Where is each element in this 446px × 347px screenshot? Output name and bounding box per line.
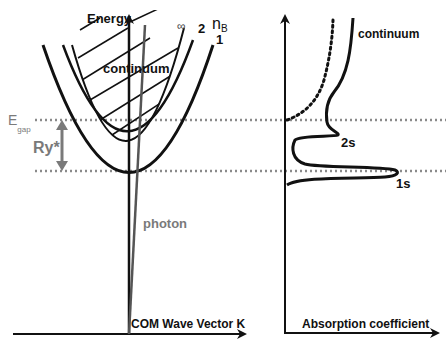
continuum-label-right: continuum — [358, 28, 419, 40]
rydberg-label: Ry* — [33, 140, 60, 156]
energy-axis-label: Energy — [87, 12, 131, 25]
absorption-axis-label: Absorption coefficient — [302, 318, 429, 330]
absorption-spectrum-curve — [287, 18, 398, 185]
continuum-label-left: continuum — [103, 62, 169, 75]
photon-label: photon — [143, 217, 187, 230]
peak-label-1s: 1s — [396, 177, 410, 190]
infinity-curve-label: ∞ — [177, 20, 186, 32]
peak-label-2s: 2s — [341, 136, 355, 149]
energy-gap-label: Egap — [8, 113, 31, 134]
exciton-diagram — [0, 0, 446, 347]
k-axis-label: COM Wave Vector K — [131, 318, 245, 330]
n1-curve-label: 1 — [216, 33, 223, 46]
quantum-number-label: nB — [212, 16, 228, 34]
n2-curve-label: 2 — [198, 22, 205, 35]
